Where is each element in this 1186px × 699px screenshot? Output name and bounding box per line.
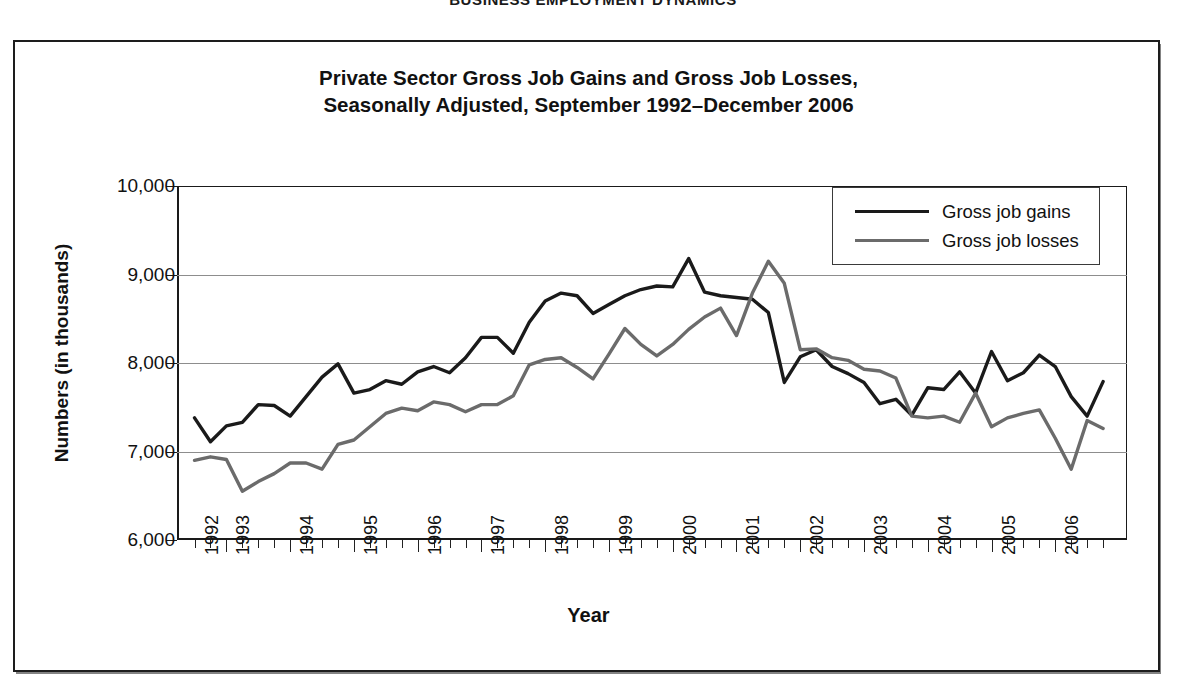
x-tick-mark	[896, 540, 897, 548]
x-tick-mark	[1055, 540, 1056, 552]
x-tick-mark	[386, 540, 387, 548]
x-tick-mark	[705, 540, 706, 548]
y-tick-label: 6,000	[65, 529, 175, 551]
x-tick-mark	[1023, 540, 1024, 548]
x-tick-mark	[402, 540, 403, 548]
y-tick-label: 9,000	[65, 264, 175, 286]
x-tick-mark	[912, 540, 913, 548]
legend-line-swatch	[855, 210, 929, 213]
x-tick-mark	[864, 540, 865, 552]
page-running-header: BUSINESS EMPLOYMENT DYNAMICS	[0, 0, 1186, 8]
x-tick-mark	[657, 540, 658, 548]
x-tick-mark	[1103, 540, 1104, 548]
x-tick-mark	[976, 540, 977, 548]
chart-title: Private Sector Gross Job Gains and Gross…	[15, 64, 1162, 119]
x-tick-mark	[322, 540, 323, 548]
x-tick-mark	[1039, 540, 1040, 548]
legend-entry: Gross job gains	[833, 197, 1099, 226]
x-tick-mark	[800, 540, 801, 552]
x-tick-mark	[673, 540, 674, 552]
x-tick-mark	[338, 540, 339, 548]
x-tick-mark	[736, 540, 737, 552]
x-tick-mark	[1087, 540, 1088, 548]
chart-legend: Gross job gainsGross job losses	[832, 187, 1100, 265]
series-line	[195, 261, 1104, 491]
x-tick-mark	[577, 540, 578, 548]
x-tick-mark	[258, 540, 259, 548]
x-tick-mark	[960, 540, 961, 548]
x-tick-mark	[721, 540, 722, 548]
chart-title-line-1: Private Sector Gross Job Gains and Gross…	[15, 64, 1162, 91]
x-tick-mark	[290, 540, 291, 552]
y-tick-label: 10,000	[65, 175, 175, 197]
x-tick-mark	[593, 540, 594, 548]
x-tick-mark	[848, 540, 849, 548]
x-axis-title: Year	[15, 604, 1162, 627]
legend-label: Gross job losses	[942, 230, 1079, 252]
x-tick-mark	[529, 540, 530, 548]
legend-entry: Gross job losses	[833, 226, 1099, 255]
y-tick-label: 8,000	[65, 352, 175, 374]
x-tick-mark	[513, 540, 514, 548]
x-tick-mark	[545, 540, 546, 552]
x-tick-mark	[992, 540, 993, 552]
x-tick-mark	[928, 540, 929, 552]
x-tick-mark	[195, 540, 196, 548]
figure-container: Private Sector Gross Job Gains and Gross…	[13, 40, 1160, 672]
x-tick-mark	[450, 540, 451, 548]
legend-label: Gross job gains	[942, 201, 1071, 223]
x-tick-mark	[641, 540, 642, 548]
x-tick-mark	[784, 540, 785, 548]
y-tick-label: 7,000	[65, 441, 175, 463]
x-tick-mark	[418, 540, 419, 552]
x-tick-mark	[274, 540, 275, 548]
x-tick-mark	[832, 540, 833, 548]
x-tick-mark	[481, 540, 482, 552]
x-tick-mark	[226, 540, 227, 552]
x-tick-mark	[354, 540, 355, 552]
chart-title-line-2: Seasonally Adjusted, September 1992–Dece…	[15, 91, 1162, 118]
x-tick-mark	[609, 540, 610, 552]
x-tick-mark	[768, 540, 769, 548]
legend-line-swatch	[855, 239, 929, 242]
x-tick-mark	[466, 540, 467, 548]
